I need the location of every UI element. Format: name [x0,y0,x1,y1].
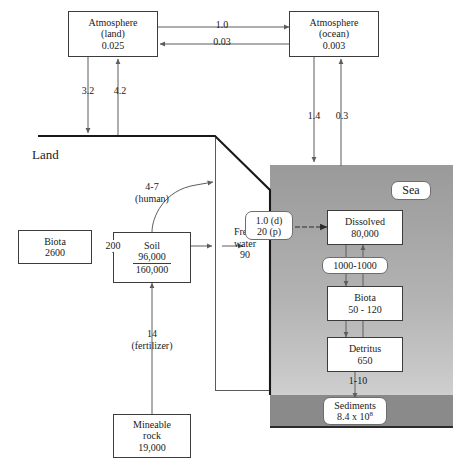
sediments-exponent: 8 [370,410,374,418]
runoff-dissolved-value: 1.0 (d) [256,215,283,226]
sediments-value: 8.4 x 108 [337,411,373,422]
runoff-particulate-value: 20 (p) [257,226,281,237]
flux-value: 0.03 [213,36,231,47]
flux-atm-ocean-to-land: 0.03 [202,36,242,48]
flux-value: 200 [106,240,121,251]
phosphorus-cycle-diagram: Atmosphere (land) 0.025 Atmosphere (ocea… [0,0,453,466]
flux-value: 4.2 [114,85,127,96]
sediments-reservoir: Sediments 8.4 x 108 [323,397,387,425]
runoff-flux-label: 1.0 (d) 20 (p) [245,211,293,240]
flux-value: 1-10 [349,375,367,386]
fresh-water-value: 90 [240,249,250,260]
flux-value: 3.2 [82,85,95,96]
flux-human-note: (human) [135,193,169,204]
flux-human: 4-7 (human) [122,181,182,204]
flux-fertilizer-note: (fertilizer) [131,340,172,351]
flux-sea-to-atm-ocean: 0.3 [322,110,362,122]
flux-value: 1.0 [216,19,229,30]
flux-fertilizer: 14 (fertilizer) [122,328,182,351]
exchange-value: 1000-1000 [333,260,376,271]
flux-human-value: 4-7 [145,181,158,192]
sea-region-label: Sea [391,181,431,200]
flux-value: 0.3 [336,110,349,121]
sea-label-text: Sea [402,184,419,197]
flux-biota-soil-exchange: 200 [96,240,130,252]
flux-value: 1.4 [308,110,321,121]
land-region-label: Land [32,148,92,163]
flux-atm-land-to-ocean: 1.0 [202,19,242,31]
flux-land-to-atm: 4.2 [100,85,140,97]
land-label-text: Land [32,147,59,162]
flux-detritus-to-sediments: 1-10 [338,375,378,387]
flux-fertilizer-value: 14 [147,328,157,339]
dissolved-biota-exchange-label: 1000-1000 [322,257,388,274]
